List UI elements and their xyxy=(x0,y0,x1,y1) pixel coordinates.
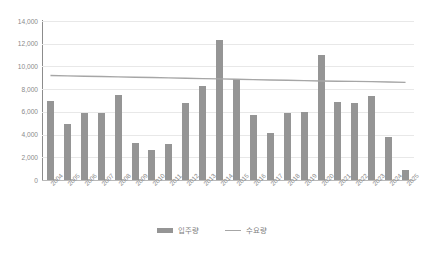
x-axis-labels: 2004200520062007200820092010201120122013… xyxy=(42,182,414,222)
y-axis-tick-label: 4,000 xyxy=(21,131,38,138)
legend-line-swatch-icon xyxy=(225,230,241,231)
chart-legend: 입주량 수요량 xyxy=(0,226,424,235)
y-axis-tick-label: 6,000 xyxy=(21,108,38,115)
chart-container: 14,00012,00010,0008,0006,0004,0002,0000 … xyxy=(0,0,424,254)
line-series-suyoryang xyxy=(42,21,414,180)
legend-item-suyoryang[interactable]: 수요량 xyxy=(225,226,267,235)
y-axis-labels: 14,00012,00010,0008,0006,0004,0002,0000 xyxy=(0,0,38,254)
y-axis-tick-label: 2,000 xyxy=(21,154,38,161)
legend-bar-swatch-icon xyxy=(157,228,173,233)
y-axis-tick-label: 14,000 xyxy=(18,18,38,25)
legend-label-ipjuryang: 입주량 xyxy=(178,226,199,235)
y-axis-tick-label: 8,000 xyxy=(21,86,38,93)
y-axis-tick-label: 10,000 xyxy=(18,63,38,70)
y-axis-tick-label: 12,000 xyxy=(18,40,38,47)
legend-item-ipjuryang[interactable]: 입주량 xyxy=(157,226,199,235)
legend-label-suyoryang: 수요량 xyxy=(246,226,267,235)
plot-area xyxy=(42,21,414,180)
y-axis-tick-label: 0 xyxy=(34,177,38,184)
